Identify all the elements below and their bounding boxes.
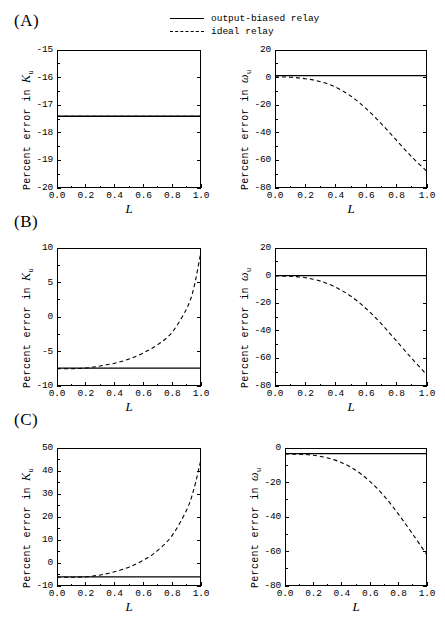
series-ideal-relay (285, 454, 427, 555)
plot-c-right-omegau: -80-60-40-2000.00.20.40.60.81.0LPercent … (0, 0, 445, 626)
series-layer (0, 0, 445, 626)
figure-root: output-biased relay ideal relay (A) (B) … (0, 0, 445, 626)
